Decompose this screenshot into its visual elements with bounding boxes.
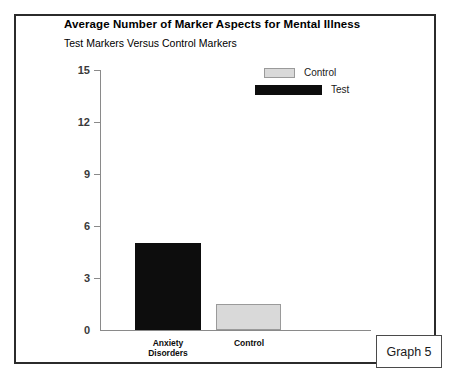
y-tick-label-0: 0 [64,324,90,336]
x-axis-label-anxiety-disorders-line1: Anxiety [128,338,208,348]
legend-entry-test: Test [255,81,385,98]
x-axis-label-control: Control [209,338,289,348]
chart-legend: Control Test [255,64,385,98]
y-tick-label-15: 15 [64,64,90,76]
legend-entry-control: Control [255,64,385,81]
y-tick-label-12: 12 [64,116,90,128]
y-tick-mark-3 [94,278,101,279]
y-tick-mark-15 [94,70,101,71]
graph-number-label: Graph 5 [386,345,431,359]
bar-control [216,304,281,330]
legend-swatch-test-icon [255,85,322,95]
bar-anxiety-disorders-test [135,243,201,330]
legend-swatch-control-icon [264,68,295,78]
graph-number-callout: Graph 5 [376,335,442,368]
x-axis-line [100,330,371,331]
x-axis-label-anxiety-disorders: Anxiety Disorders [128,338,208,358]
y-tick-mark-6 [94,226,101,227]
legend-label-test: Test [331,84,349,95]
y-tick-mark-12 [94,122,101,123]
y-tick-label-3: 3 [64,272,90,284]
y-tick-label-6: 6 [64,220,90,232]
y-axis-line [100,70,101,331]
y-tick-label-9: 9 [64,168,90,180]
y-tick-mark-9 [94,174,101,175]
x-axis-label-anxiety-disorders-line2: Disorders [128,348,208,358]
chart-title: Average Number of Marker Aspects for Men… [64,18,360,30]
y-axis-tick-labels: 15 12 9 6 3 0 [60,0,90,379]
legend-label-control: Control [304,67,336,78]
x-axis-label-control-line1: Control [209,338,289,348]
